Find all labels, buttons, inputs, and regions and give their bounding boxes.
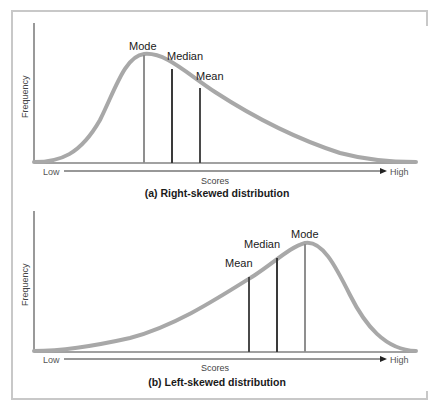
x-axis-label: Scores (201, 363, 230, 373)
chart-left-skewed: Mean Median Mode Frequency Low High Scor… (20, 211, 416, 388)
arrowhead-icon (380, 356, 387, 362)
chart-caption: (a) Right-skewed distribution (145, 187, 290, 199)
distribution-curve (34, 54, 416, 162)
x-axis-label: Scores (201, 176, 230, 186)
chart-right-skewed: Mode Median Mean Frequency Low High Scor… (20, 23, 416, 199)
x-axis-low-label: Low (43, 167, 60, 177)
median-label: Median (167, 50, 203, 62)
x-axis-low-label: Low (43, 355, 60, 365)
mode-label: Mode (291, 228, 319, 240)
arrowhead-icon (380, 168, 387, 174)
y-axis-label: Frequency (20, 75, 30, 118)
mean-label: Mean (225, 257, 253, 269)
x-axis-high-label: High (390, 355, 409, 365)
mode-label: Mode (129, 40, 157, 52)
chart-caption: (b) Left-skewed distribution (148, 376, 286, 388)
x-axis-high-label: High (390, 167, 409, 177)
median-label: Median (244, 238, 280, 250)
skewed-distributions-figure: Mode Median Mean Frequency Low High Scor… (0, 0, 431, 414)
mean-label: Mean (196, 70, 224, 82)
y-axis-label: Frequency (20, 263, 30, 306)
